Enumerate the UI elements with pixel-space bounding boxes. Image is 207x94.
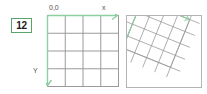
left-grid-panel bbox=[46, 14, 120, 88]
rotated-grid-wrapper: 0,0 x y bbox=[126, 15, 202, 88]
diagram-canvas: 12 0,0 x Y bbox=[0, 0, 207, 94]
right-grid-svg bbox=[126, 15, 202, 81]
step-number-badge: 12 bbox=[11, 18, 32, 33]
axis-arrows bbox=[46, 14, 118, 86]
left-x-axis-label: x bbox=[102, 4, 106, 11]
left-origin-label: 0,0 bbox=[49, 4, 59, 11]
step-number-label: 12 bbox=[16, 21, 27, 31]
right-grid-panel: 0,0 x y bbox=[126, 15, 202, 88]
left-y-axis-label: Y bbox=[33, 67, 38, 74]
grid-lines bbox=[48, 16, 119, 87]
rotated-axis-arrows bbox=[126, 15, 190, 66]
left-grid-svg bbox=[46, 14, 120, 88]
rotated-grid-lines bbox=[126, 15, 202, 80]
